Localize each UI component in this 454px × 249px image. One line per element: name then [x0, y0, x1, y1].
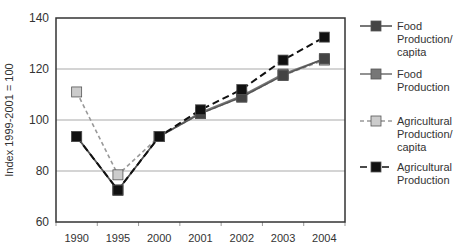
x-axis-ticks: 1990199520002001200220032004: [56, 222, 345, 244]
x-tick-label: 2002: [230, 232, 254, 244]
legend-marker: [371, 116, 381, 126]
legend-item: AgriculturalProduction: [360, 161, 452, 186]
legend-label: Production: [397, 81, 450, 93]
x-tick-label: 1990: [64, 232, 88, 244]
legend-marker: [371, 21, 381, 31]
legend-label: Food: [397, 20, 422, 32]
data-point-marker: [113, 170, 123, 180]
x-tick-label: 2004: [312, 232, 336, 244]
legend-label: capita: [397, 46, 427, 58]
x-tick-label: 1995: [106, 232, 130, 244]
data-point-marker: [319, 32, 329, 42]
y-tick-label: 120: [29, 62, 49, 76]
legend-item: FoodProduction/capita: [360, 20, 454, 58]
x-tick-label: 2003: [271, 232, 295, 244]
legend-label: Production: [397, 174, 450, 186]
gridlines: [56, 69, 345, 171]
legend-label: Production/: [397, 33, 454, 45]
y-axis-ticks: 6080100120140: [29, 11, 49, 229]
series-1: [72, 54, 330, 195]
legend-label: Agricultural: [397, 115, 452, 127]
legend-item: AgriculturalProduction/capita: [360, 115, 454, 153]
data-point-marker: [154, 132, 164, 142]
legend-label: Food: [397, 68, 422, 80]
y-tick-label: 140: [29, 11, 49, 25]
data-point-marker: [278, 55, 288, 65]
line-chart: 6080100120140 19901995200020012002200320…: [0, 0, 454, 249]
legend-label: Production/: [397, 128, 454, 140]
y-tick-label: 80: [36, 164, 50, 178]
data-point-marker: [196, 105, 206, 115]
series-0: [72, 54, 330, 195]
data-point-marker: [237, 84, 247, 94]
y-tick-label: 100: [29, 113, 49, 127]
data-point-marker: [319, 54, 329, 64]
data-point-marker: [113, 185, 123, 195]
data-point-marker: [278, 70, 288, 80]
legend-label: Agricultural: [397, 161, 452, 173]
x-tick-label: 2000: [147, 232, 171, 244]
legend-label: capita: [397, 141, 427, 153]
x-tick-label: 2001: [188, 232, 212, 244]
legend: FoodProduction/capitaFoodProductionAgric…: [360, 20, 454, 186]
data-point-marker: [72, 87, 82, 97]
legend-marker: [371, 162, 381, 172]
y-axis-label: Index 1999-2001 = 100: [3, 63, 15, 176]
legend-item: FoodProduction: [360, 68, 450, 93]
y-tick-label: 60: [36, 215, 50, 229]
data-point-marker: [72, 132, 82, 142]
legend-marker: [371, 69, 381, 79]
